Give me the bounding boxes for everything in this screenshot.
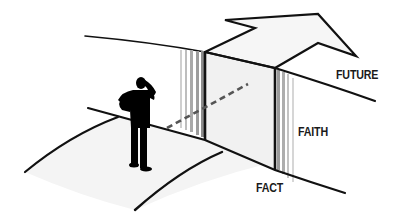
label-faith: FAITH bbox=[298, 124, 328, 139]
stripes-right bbox=[277, 70, 294, 182]
diagram-illustration bbox=[0, 0, 402, 218]
fact-faith-future-diagram: FUTURE FAITH FACT bbox=[0, 0, 402, 218]
label-fact: FACT bbox=[256, 180, 283, 195]
label-future: FUTURE bbox=[336, 67, 378, 82]
road-back-edge bbox=[85, 36, 205, 52]
stripes-left bbox=[180, 50, 204, 137]
